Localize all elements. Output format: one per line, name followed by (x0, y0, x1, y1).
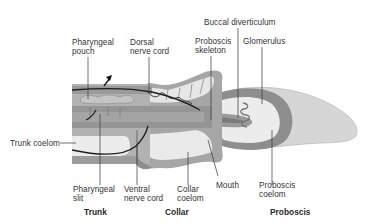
label-ventral-nerve-cord: Ventral nerve cord (124, 185, 163, 203)
label-glomerulus: Glomerulus (243, 37, 285, 46)
label-pharyngeal-slit: Pharyngeal slit (73, 185, 115, 203)
label-pharyngeal-pouch: Pharyngeal pouch (72, 38, 114, 56)
trunk-ventral-wall (72, 156, 136, 164)
region-label-proboscis: Proboscis (270, 207, 311, 217)
pharynx-inner (72, 112, 204, 122)
label-buccal-diverticulum: Buccal diverticulum (204, 18, 275, 27)
label-proboscis-coelom: Proboscis coelom (259, 181, 295, 199)
region-label-collar: Collar (165, 207, 189, 217)
label-mouth: Mouth (216, 181, 239, 190)
label-dorsal-nerve-cord: Dorsal nerve cord (130, 38, 169, 56)
label-collar-coelom: Collar coelom (177, 185, 204, 203)
label-proboscis-skeleton: Proboscis skeleton (195, 37, 231, 55)
label-trunk-coelom: Trunk coelom (10, 139, 60, 148)
region-label-trunk: Trunk (84, 207, 107, 217)
